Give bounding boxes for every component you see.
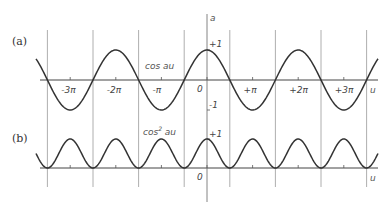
axis-label-u-bottom: u <box>370 173 376 183</box>
x-tick-label: -3π <box>61 85 76 95</box>
panel-label-a: (a) <box>12 35 27 48</box>
y-tick-plus1-bottom: +1 <box>209 129 222 139</box>
x-tick-label: -π <box>152 85 161 95</box>
axis-label-a: a <box>210 13 216 23</box>
cos2-label: cos2 au <box>143 125 176 137</box>
x-tick-labels: -3π-2π-π+π+2π+3π <box>61 85 354 95</box>
y-tick-plus1-top: +1 <box>209 39 222 49</box>
x-tick-label: +2π <box>289 85 308 95</box>
cosine-chart: (a) (b) a u u cos au cos2 au +1 -1 +1 0 … <box>0 0 388 213</box>
zero-label-top: 0 <box>197 84 203 94</box>
y-tick-minus1-top: -1 <box>209 100 218 110</box>
x-tick-label: -2π <box>107 85 122 95</box>
zero-label-bottom: 0 <box>197 172 203 182</box>
panel-label-b: (b) <box>12 132 28 145</box>
x-tick-label: +π <box>244 85 258 95</box>
x-tick-label: +3π <box>335 85 354 95</box>
cos-label: cos au <box>145 61 175 71</box>
axis-label-u-top: u <box>370 85 376 95</box>
